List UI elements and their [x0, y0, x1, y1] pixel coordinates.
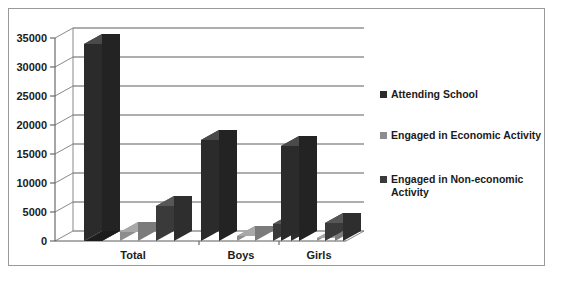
legend-item-non-economic-activity[interactable]: Engaged in Non-economic Activity — [380, 173, 526, 198]
bar-boys-economic-activity[interactable] — [237, 226, 273, 241]
bar-total-non-economic-activity[interactable] — [156, 196, 192, 241]
bar-girls-non-economic-activity[interactable] — [325, 213, 361, 241]
y-tick-label: 5000 — [23, 206, 47, 218]
legend-item-label: Engaged in Non-economic Activity — [391, 173, 526, 198]
y-tick-label: 20000 — [16, 119, 47, 131]
legend-marker-square — [380, 132, 387, 139]
bar-group-girls — [281, 136, 361, 241]
legend-item-attending-school[interactable]: Attending School — [380, 88, 478, 100]
bar-total-attending-school[interactable] — [84, 34, 120, 241]
y-tick-label: 15000 — [16, 148, 47, 160]
chart-frame: 35000 30000 25000 20000 15000 10000 5000… — [8, 8, 545, 266]
legend-item-economic-activity[interactable]: Engaged in Economic Activity — [380, 129, 541, 141]
legend-item-label: Attending School — [391, 88, 478, 100]
y-tick-label: 25000 — [16, 90, 47, 102]
x-axis-tick-labels: Total Boys Girls — [120, 249, 331, 261]
bar-total-economic-activity[interactable] — [120, 222, 156, 241]
y-tick-label: 30000 — [16, 61, 47, 73]
y-tick-label: 0 — [41, 235, 47, 247]
bar-chart-plot: 35000 30000 25000 20000 15000 10000 5000… — [9, 9, 546, 267]
bar-boys-attending-school[interactable] — [201, 130, 237, 241]
x-tick-label-boys: Boys — [228, 249, 255, 261]
figure-caption — [0, 272, 575, 289]
legend-item-label: Engaged in Economic Activity — [391, 129, 541, 141]
legend-marker-square — [380, 91, 387, 98]
x-tick-marks — [199, 241, 279, 245]
legend-marker-square — [380, 176, 387, 183]
y-tick-marks — [50, 38, 55, 241]
x-tick-label-total: Total — [120, 249, 145, 261]
bar-girls-attending-school[interactable] — [281, 136, 317, 241]
axis-depth-connectors — [55, 28, 73, 241]
y-axis-tick-labels: 35000 30000 25000 20000 15000 10000 5000… — [16, 32, 47, 247]
bar-group-total — [84, 34, 192, 241]
y-tick-label: 35000 — [16, 32, 47, 44]
x-tick-label-girls: Girls — [306, 249, 331, 261]
y-tick-label: 10000 — [16, 177, 47, 189]
chart-legend: Attending School Engaged in Economic Act… — [380, 88, 541, 198]
